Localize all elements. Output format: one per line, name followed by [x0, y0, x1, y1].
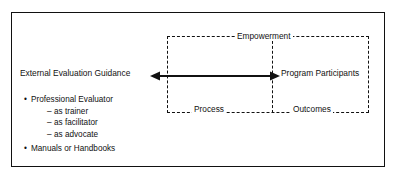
dash-marker: –: [47, 129, 54, 141]
evaluator-bullet-list: • Professional Evaluator – as trainer – …: [24, 94, 115, 155]
list-item-label: as advocate: [54, 129, 98, 141]
label-external-evaluation-guidance: External Evaluation Guidance: [20, 68, 130, 79]
list-item-label: as facilitator: [54, 117, 98, 129]
label-empowerment: Empowerment: [235, 31, 293, 41]
dash-marker: –: [47, 117, 54, 129]
list-item: • Manuals or Handbooks: [24, 143, 115, 155]
label-process: Process: [192, 104, 226, 114]
bullet-marker: •: [24, 143, 31, 155]
bullet-marker: •: [24, 94, 31, 106]
label-program-participants: Program Participants: [281, 68, 359, 79]
list-item-label: Professional Evaluator: [31, 94, 113, 106]
list-item: • Professional Evaluator: [24, 94, 115, 106]
dash-marker: –: [47, 106, 54, 118]
empowerment-evaluation-diagram: Empowerment Process Outcomes External Ev…: [0, 0, 404, 180]
double-headed-arrow-icon: [150, 69, 280, 83]
list-item: – as advocate: [24, 129, 115, 141]
label-outcomes: Outcomes: [291, 104, 333, 114]
list-item-label: as trainer: [54, 106, 88, 118]
list-item-label: Manuals or Handbooks: [31, 143, 115, 155]
list-item: – as facilitator: [24, 117, 115, 129]
list-item: – as trainer: [24, 106, 115, 118]
